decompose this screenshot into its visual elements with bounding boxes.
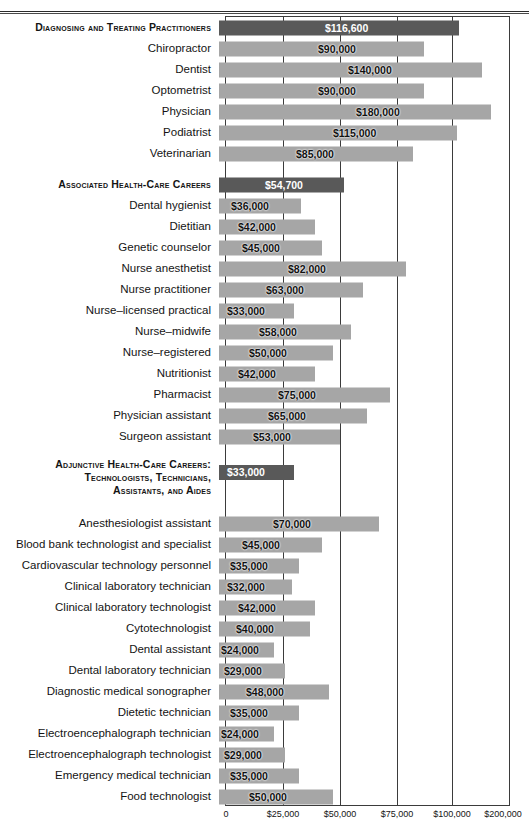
- chart-row: Nurse–registered$50,000: [0, 342, 529, 363]
- bar-area: $35,000: [218, 765, 503, 786]
- category-label: Podiatrist: [0, 126, 218, 139]
- bar-value-label: $24,000: [221, 728, 259, 740]
- bar-area: $53,000: [218, 426, 503, 447]
- bar-value-label: $115,000: [333, 127, 376, 139]
- bar-value-label: $48,000: [246, 686, 284, 698]
- category-label: Physician assistant: [0, 409, 218, 422]
- category-label: Emergency medical technician: [0, 769, 218, 782]
- chart-row: Associated Health-Care Careers$54,700: [0, 174, 529, 195]
- bar-value-label: $54,700: [265, 179, 303, 191]
- category-label: Clinical laboratory technician: [0, 580, 218, 593]
- category-label: Nurse anesthetist: [0, 262, 218, 275]
- chart-row: Chiropractor$90,000: [0, 38, 529, 59]
- bar-area: $54,700: [218, 174, 503, 195]
- category-label: Nurse–midwife: [0, 325, 218, 338]
- bar-area: $58,000: [218, 321, 503, 342]
- chart-row: Physician assistant$65,000: [0, 405, 529, 426]
- bar-value-label: $75,000: [278, 389, 316, 401]
- bar-value-label: $42,000: [238, 602, 276, 614]
- chart-row: Electroencephalograph technician$24,000: [0, 723, 529, 744]
- chart-row: Surgeon assistant$53,000: [0, 426, 529, 447]
- section-label: Diagnosing and Treating Practitioners: [0, 21, 218, 34]
- bar-area: $42,000: [218, 597, 503, 618]
- bar-area: $36,000: [218, 195, 503, 216]
- axis-tick-label-3: $75,000: [381, 809, 414, 819]
- bar-value-label: $33,000: [227, 305, 265, 317]
- bar-value-label: $82,000: [288, 263, 326, 275]
- category-label: Dental assistant: [0, 643, 218, 656]
- bar-value-label: $36,000: [231, 200, 269, 212]
- section-label: Associated Health-Care Careers: [0, 178, 218, 191]
- chart-row: Nurse–midwife$58,000: [0, 321, 529, 342]
- category-label: Electroencephalograph technologist: [0, 748, 218, 761]
- category-label: Dietitian: [0, 220, 218, 233]
- bar-area: $116,600: [218, 17, 503, 38]
- chart-row: Cardiovascular technology personnel$35,0…: [0, 555, 529, 576]
- bar-value-label: $50,000: [249, 791, 287, 803]
- chart-row: Dental assistant$24,000: [0, 639, 529, 660]
- bar-area: $82,000: [218, 258, 503, 279]
- bar-area: $40,000: [218, 618, 503, 639]
- category-label: Blood bank technologist and specialist: [0, 538, 218, 551]
- bar-area: $90,000: [218, 38, 503, 59]
- chart-row: Dental hygienist$36,000: [0, 195, 529, 216]
- bar-value-label: $180,000: [356, 106, 400, 118]
- bar: [219, 104, 491, 119]
- bar-area: $33,000: [218, 300, 503, 321]
- bar-value-label: $53,000: [253, 431, 291, 443]
- chart-row: Adjunctive Health-Care Careers: Technolo…: [0, 457, 529, 513]
- bar-value-label: $140,000: [348, 64, 392, 76]
- bar-value-label: $24,000: [221, 644, 259, 656]
- bar-area: $29,000: [218, 744, 503, 765]
- bar-area: $48,000: [218, 681, 503, 702]
- bar-area: $24,000: [218, 639, 503, 660]
- bar-value-label: $116,600: [325, 22, 368, 34]
- chart-row: Veterinarian$85,000: [0, 143, 529, 164]
- row-spacer: [0, 164, 529, 174]
- category-label: Diagnostic medical sonographer: [0, 685, 218, 698]
- chart-row: Pharmacist$75,000: [0, 384, 529, 405]
- bar-value-label: $35,000: [230, 770, 268, 782]
- bar-area: $180,000: [218, 101, 503, 122]
- bar-area: $65,000: [218, 405, 503, 426]
- category-label: Veterinarian: [0, 147, 218, 160]
- bar-area: $75,000: [218, 384, 503, 405]
- category-label: Nutritionist: [0, 367, 218, 380]
- category-label: Dietetic technician: [0, 706, 218, 719]
- row-spacer: [0, 447, 529, 457]
- category-label: Cardiovascular technology personnel: [0, 559, 218, 572]
- axis-tick-label-4: $100,000: [433, 809, 471, 819]
- bar-area: $35,000: [218, 555, 503, 576]
- bar-area: $29,000: [218, 660, 503, 681]
- chart-row: Genetic counselor$45,000: [0, 237, 529, 258]
- bar-value-label: $35,000: [230, 560, 268, 572]
- category-label: Nurse–registered: [0, 346, 218, 359]
- chart-row: Podiatrist$115,000: [0, 122, 529, 143]
- bar-value-label: $42,000: [238, 368, 276, 380]
- category-label: Chiropractor: [0, 42, 218, 55]
- page-top-rule: [0, 11, 529, 14]
- bar-value-label: $35,000: [230, 707, 268, 719]
- bar-area: $42,000: [218, 216, 503, 237]
- chart-row: Food technologist$50,000: [0, 786, 529, 807]
- bar-value-label: $70,000: [273, 518, 311, 530]
- bar-area: $85,000: [218, 143, 503, 164]
- bar-value-label: $45,000: [242, 242, 280, 254]
- axis-tick-label-5: $200,000: [484, 809, 522, 819]
- category-label: Genetic counselor: [0, 241, 218, 254]
- category-label: Optometrist: [0, 84, 218, 97]
- category-label: Nurse practitioner: [0, 283, 218, 296]
- chart-row: Electroencephalograph technologist$29,00…: [0, 744, 529, 765]
- chart-row: Emergency medical technician$35,000: [0, 765, 529, 786]
- bar-area: $90,000: [218, 80, 503, 101]
- bar-area: $42,000: [218, 363, 503, 384]
- bar-value-label: $50,000: [249, 347, 287, 359]
- bar-value-label: $45,000: [242, 539, 280, 551]
- salary-bar-chart: Diagnosing and Treating Practitioners$11…: [0, 0, 529, 832]
- bar-area: $32,000: [218, 576, 503, 597]
- bar-area: $70,000: [218, 513, 503, 534]
- chart-row: Dental laboratory technician$29,000: [0, 660, 529, 681]
- chart-row: Physician$180,000: [0, 101, 529, 122]
- bar-area: $63,000: [218, 279, 503, 300]
- category-label: Surgeon assistant: [0, 430, 218, 443]
